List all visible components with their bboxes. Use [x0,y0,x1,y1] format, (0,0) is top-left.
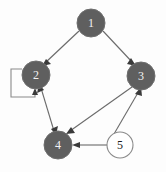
node-4-label: 4 [55,138,61,152]
edge-5-to-4 [72,142,107,148]
node-2[interactable]: 2 [22,61,50,89]
node-1[interactable]: 1 [77,9,105,37]
edge-1-to-3-line [103,31,133,63]
edge-3-to-4 [66,87,132,134]
node-5-label: 5 [117,138,123,152]
graph-svg: 1 2 3 4 5 [0,0,166,172]
edge-1-to-2-line [45,31,79,63]
node-1-label: 1 [88,16,94,30]
edge-1-to-3 [103,31,136,66]
edge-5-to-3 [114,87,142,134]
directed-graph-figure: 1 2 3 4 5 [0,0,166,172]
node-3-label: 3 [138,69,144,83]
node-4[interactable]: 4 [44,131,72,159]
edge-2-to-4-bidirectional [37,84,58,135]
node-3[interactable]: 3 [127,62,155,90]
edge-5-to-4-arrowhead [72,142,80,148]
edge-2-to-4-line [41,88,54,131]
edge-1-to-2 [42,31,79,66]
edge-3-to-4-line [70,87,132,131]
node-5[interactable]: 5 [107,132,133,158]
node-2-label: 2 [33,68,39,82]
